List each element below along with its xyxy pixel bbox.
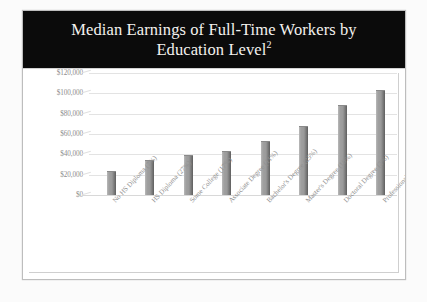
y-axis: $0$20,000$40,000$60,000$80,000$100,000$1… bbox=[29, 73, 87, 195]
chart-title-footnote-marker: 2 bbox=[266, 39, 271, 50]
chart-title-line-1: Median Earnings of Full-Time Workers by bbox=[71, 20, 356, 39]
x-axis-tick-label: Master's Degree (10%) bbox=[304, 199, 310, 204]
bar[interactable] bbox=[338, 105, 347, 195]
y-axis-tick-label: $120,000 bbox=[57, 69, 83, 77]
chart-plot-area: $0$20,000$40,000$60,000$80,000$100,000$1… bbox=[23, 68, 405, 279]
x-axis-tick-label: Doctoral Degree (2%) bbox=[342, 199, 348, 204]
x-axis-tick-label: Professional Degree (2%) bbox=[381, 199, 387, 204]
chart-title-banner: Median Earnings of Full-Time Workers by … bbox=[23, 11, 405, 68]
x-axis-tick-label: Bachelor's Degree (25%) bbox=[265, 199, 271, 204]
x-axis-tick-label: Some College (17%) bbox=[188, 199, 194, 204]
scanned-page-background: Median Earnings of Full-Time Workers by … bbox=[0, 0, 427, 302]
chart-title-line-2: Education Level bbox=[156, 40, 266, 59]
y-axis-tick-label: $40,000 bbox=[60, 150, 83, 158]
chart-panel: $0$20,000$40,000$60,000$80,000$100,000$1… bbox=[29, 73, 399, 273]
bar-slot bbox=[89, 73, 128, 195]
x-axis-tick-label: No HS Diploma (7%) bbox=[111, 199, 117, 204]
y-axis-tick-label: $60,000 bbox=[60, 130, 83, 138]
page-title: Median Earnings of Full-Time Workers by … bbox=[71, 20, 356, 59]
x-axis-tick-label: Associate Degree (11%) bbox=[227, 199, 233, 204]
bar[interactable] bbox=[376, 90, 385, 195]
y-axis-tick-label: $80,000 bbox=[60, 110, 83, 118]
y-axis-tick-label: $20,000 bbox=[60, 171, 83, 179]
chart-figure-frame: Median Earnings of Full-Time Workers by … bbox=[22, 10, 406, 280]
x-axis-labels: No HS Diploma (7%)HS Diploma (27%)Some C… bbox=[89, 197, 397, 273]
y-axis-tick-label: $100,000 bbox=[57, 89, 83, 97]
bar[interactable] bbox=[107, 171, 116, 195]
x-axis-tick-label: HS Diploma (27%) bbox=[150, 199, 156, 204]
